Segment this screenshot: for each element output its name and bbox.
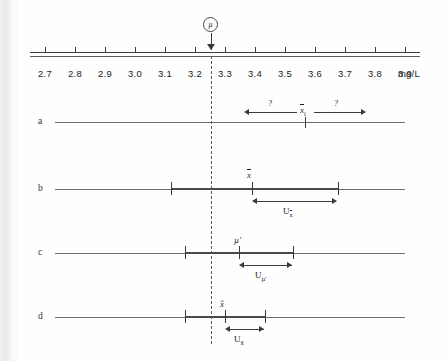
row-a-left-arrow-line [249,112,297,113]
axis-tick-label-2-7: 2.7 [32,68,58,79]
axis-unit-label: mg/L [398,68,420,79]
axis-tick-3-4 [255,47,256,53]
row-a-left-arrow-label: ? [268,99,272,108]
row-d-uncertainty-arrowhead-right-icon [259,326,264,332]
axis-tick-3-2 [195,47,196,53]
axis-tick-2-8 [75,47,76,53]
row-axis-a [55,122,405,123]
callout-arrowhead-icon [207,44,215,50]
row-d-lower-tick [185,310,186,323]
row-a-right-arrowhead-icon [361,109,366,115]
axis-tick-3-1 [165,47,166,53]
row-label-d: d [38,311,43,321]
axis-tick-3-7 [345,47,346,53]
axis-tick-3-6 [315,47,316,53]
row-b-uncertainty-arrowhead-right-icon [332,198,337,204]
axis-tick-3-5 [285,47,286,53]
row-b-interval-bar [171,188,338,190]
row-c-uncertainty-arrow-line [244,265,292,266]
axis-rule-lower [30,56,420,57]
axis-tick-label-3-0: 3.0 [122,68,148,79]
row-c-center-symbol: µ′ [234,235,241,245]
row-b-upper-tick [338,182,339,195]
row-b-center-tick [252,182,253,195]
axis-tick-label-2-8: 2.8 [62,68,88,79]
row-c-uncertainty-label: Uµ′ [255,270,267,282]
axis-tick-label-3-4: 3.4 [242,68,268,79]
true-value-reference-line [211,56,212,344]
row-label-a: a [38,116,42,126]
row-b-lower-tick [171,182,172,195]
axis-tick-label-3-2: 3.2 [182,68,208,79]
axis-tick-3-0 [135,47,136,53]
row-c-lower-tick [185,246,186,259]
row-a-left-arrowhead-icon [244,109,249,115]
row-d-center-symbol: x̂ [220,299,224,309]
axis-tick-3-3 [225,47,226,53]
row-d-uncertainty-label: Ux̂ [234,334,244,346]
true-value-callout-symbol: µ [203,17,218,32]
axis-tick-label-3-7: 3.7 [332,68,358,79]
row-d-center-tick [225,310,226,323]
axis-tick-2-9 [105,47,106,53]
axis-tick-label-2-9: 2.9 [92,68,118,79]
row-c-uncertainty-arrowhead-left-icon [239,262,244,268]
row-c-center-tick [239,246,240,259]
scan-edge-artifact-inner [11,0,18,361]
row-c-upper-tick [293,246,294,259]
row-b-uncertainty-arrowhead-left-icon [252,198,257,204]
row-label-c: c [38,247,42,257]
row-b-uncertainty-label: Ux [283,206,293,218]
figure-canvas: µ 2.72.82.93.03.13.23.33.43.53.63.73.83.… [0,0,448,361]
row-a-right-arrow-label: ? [334,99,338,108]
row-d-uncertainty-arrowhead-left-icon [225,326,230,332]
axis-tick-label-3-1: 3.1 [152,68,178,79]
row-a-center-symbol: xi [300,105,306,117]
row-a-right-arrow-line [314,112,362,113]
axis-tick-2-7 [45,47,46,53]
axis-tick-label-3-6: 3.6 [302,68,328,79]
axis-tick-3-9 [405,47,406,53]
row-d-upper-tick [265,310,266,323]
row-b-center-symbol: x [247,170,251,180]
axis-tick-3-8 [375,47,376,53]
row-c-uncertainty-arrowhead-right-icon [287,262,292,268]
row-a-center-tick [305,117,306,128]
axis-tick-label-3-5: 3.5 [272,68,298,79]
axis-tick-label-3-3: 3.3 [212,68,238,79]
scan-edge-artifact [0,0,11,361]
axis-tick-label-3-8: 3.8 [362,68,388,79]
row-b-uncertainty-arrow-line [257,201,333,202]
row-label-b: b [38,183,43,193]
